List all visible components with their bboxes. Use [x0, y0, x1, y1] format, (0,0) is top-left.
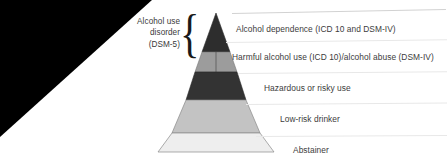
pyramid-tier-3-hazardous-or-risky-use — [186, 72, 246, 100]
tier-label-hazardous-or-risky-use: Hazardous or risky use — [264, 83, 351, 93]
tier-label-low-risk-drinker: Low-risk drinker — [280, 114, 340, 124]
tier-label-alcohol-dependence: Alcohol dependence (ICD 10 and DSM-IV) — [236, 24, 396, 34]
leader-rule-5 — [256, 135, 447, 137]
tier-label-abstainer: Abstainer — [293, 145, 329, 155]
pyramid-tier-1-alcohol-dependence — [202, 13, 230, 52]
tier-label-harmful-alcohol-use: Harmful alcohol use (ICD 10)/alcohol abu… — [232, 52, 434, 62]
leader-rule-4 — [246, 103, 447, 105]
alcohol-use-pyramid-figure: Alcohol use disorder (DSM-5) { Alcohol d… — [0, 0, 447, 161]
